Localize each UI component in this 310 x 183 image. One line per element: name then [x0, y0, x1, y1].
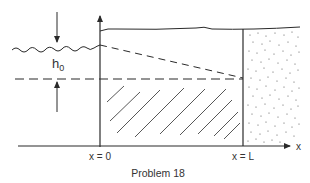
- problem-18-diagram: h0 x = 0 x = L x Problem 18: [0, 0, 310, 183]
- head-label: h0: [52, 56, 64, 73]
- top-surface-line: [100, 27, 300, 31]
- sloping-dashed-water-table: [100, 45, 243, 78]
- x-end-label: x = L: [232, 151, 254, 162]
- stippled-porous-region: [247, 31, 299, 142]
- figure-caption: Problem 18: [131, 167, 185, 179]
- x-axis-label: x: [296, 141, 301, 152]
- reservoir-water-surface: [12, 45, 100, 52]
- hatched-aquifer-region: [107, 86, 240, 139]
- x-origin-label: x = 0: [89, 151, 111, 162]
